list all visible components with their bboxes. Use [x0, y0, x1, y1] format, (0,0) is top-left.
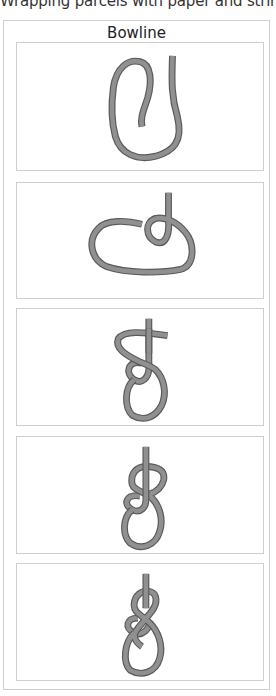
step-panel-3	[16, 308, 264, 426]
bowline-figure: Bowline	[3, 20, 270, 690]
rope-loop-step-2-icon	[17, 183, 263, 298]
rope-loop-step-5-icon	[17, 564, 263, 680]
step-panel-4	[16, 436, 264, 554]
figure-title: Bowline	[4, 24, 269, 42]
step-panel-2	[16, 182, 264, 299]
step-panel-1	[16, 42, 264, 171]
rope-loop-step-1-icon	[17, 43, 263, 170]
rope-loop-step-3-icon	[17, 309, 263, 425]
step-panel-5	[16, 563, 264, 681]
rope-loop-step-4-icon	[17, 437, 263, 553]
cropped-caption-text: Wrapping parcels with paper and string a…	[0, 0, 276, 10]
